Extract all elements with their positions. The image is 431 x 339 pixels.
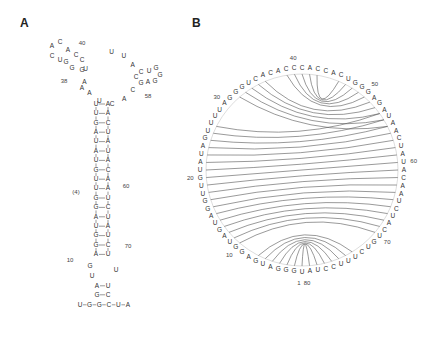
circle-nucleotide: C [292, 64, 297, 71]
circle-nucleotide: U [346, 257, 351, 264]
hairpin-nucleotide: U [147, 67, 152, 74]
position-label-40: 40 [290, 55, 297, 61]
position-label-1: 1 [297, 280, 301, 286]
circle-nucleotide: C [300, 64, 305, 71]
circle-nucleotide: U [228, 238, 233, 245]
circle-nucleotide: G [284, 266, 289, 273]
position-label-60: 60 [410, 158, 417, 164]
position-label-20: 20 [187, 175, 194, 181]
circle-nucleotide: U [399, 142, 404, 149]
circle-nucleotide: U [339, 260, 344, 267]
circle-nucleotide: C [253, 75, 258, 82]
hairpin-nucleotide: G [63, 58, 68, 65]
circle-nucleotide: C [316, 65, 321, 72]
circle-nucleotide: G [217, 226, 222, 233]
position-label-58: 58 [145, 93, 152, 99]
hairpin-nucleotide: A [80, 84, 85, 91]
circle-nucleotide: C [339, 71, 344, 78]
pair-arc [287, 243, 324, 265]
stem-nucleotide-right: A [106, 222, 111, 229]
circle-nucleotide: A [268, 263, 273, 270]
pair-arc [209, 133, 391, 149]
tail-nucleotide: G [87, 301, 92, 308]
stem-nucleotide-right: A [106, 156, 111, 163]
circle-nucleotide: U [397, 197, 402, 204]
circle-nucleotide: G [372, 238, 377, 245]
circle-nucleotide: C [323, 265, 328, 272]
hairpin-nucleotide: G [152, 77, 157, 84]
hairpin-nucleotide: G [79, 66, 84, 73]
circle-nucleotide: A [402, 166, 407, 173]
position-label-50: 50 [371, 81, 378, 87]
circle-nucleotide: U [300, 268, 305, 275]
circle-nucleotide: G [353, 79, 358, 86]
circle-nucleotide: U [387, 112, 392, 119]
stem-nucleotide-right: A [106, 175, 111, 182]
circle-nucleotide: U [200, 190, 205, 197]
circle-nucleotide: A [222, 232, 227, 239]
loop-nucleotide: U [97, 97, 102, 104]
pair-arc [258, 84, 375, 114]
position-label-38: 38 [61, 78, 68, 84]
circle-nucleotide: C [394, 205, 399, 212]
circle-nucleotide: A [391, 119, 396, 126]
circle-nucleotide: G [359, 83, 364, 90]
circle-nucleotide: U [316, 266, 321, 273]
hairpin-nucleotide: U [58, 56, 63, 63]
stem-nucleotide-right: A [106, 109, 111, 116]
circle-nucleotide: G [202, 134, 207, 141]
hairpin-nucleotide: A [50, 42, 55, 49]
circle-nucleotide: C [397, 134, 402, 141]
loop-nucleotide: U [90, 272, 95, 279]
circle-nucleotide: U [353, 253, 358, 260]
loop-nucleotide: U [122, 52, 127, 59]
circle-nucleotide: U [217, 106, 222, 113]
circle-nucleotide: C [382, 226, 387, 233]
circle-nucleotide: A [276, 67, 281, 74]
pair-arc [207, 170, 398, 185]
hairpin-nucleotide: G [157, 71, 162, 78]
stem-nucleotide-left: A [94, 128, 99, 135]
loop-nucleotide: C [110, 100, 115, 107]
pair-arc [213, 191, 395, 207]
pair-arc [302, 74, 352, 102]
circle-nucleotide: U [391, 212, 396, 219]
position-label-40: 40 [79, 40, 86, 46]
circle-nucleotide: U [205, 127, 210, 134]
circle-nucleotide: A [387, 219, 392, 226]
position-label-60: 60 [123, 183, 130, 189]
secondary-structure-diagram: UAUAGCAUUAAUUAGCUAUAGUGCAUUAGUGCAUGUUAUG… [0, 0, 431, 339]
circle-nucleotide: C [331, 263, 336, 270]
pair-arc [220, 203, 391, 221]
circle-nucleotide: G [240, 248, 245, 255]
circle-nucleotide: G [276, 265, 281, 272]
pair-arc [317, 75, 339, 99]
stem-nucleotide-right: A [106, 137, 111, 144]
circle-nucleotide: A [331, 69, 336, 76]
circle-nucleotide: U [198, 166, 203, 173]
hairpin-nucleotide: C [139, 68, 144, 75]
circle-nucleotide: C [323, 67, 328, 74]
circle-nucleotide: G [233, 88, 238, 95]
hairpin-nucleotide: G [69, 64, 74, 71]
hairpin-nucleotide: A [146, 78, 151, 85]
circle-nucleotide: U [246, 79, 251, 86]
stem-nucleotide-right: C [106, 291, 111, 298]
position-label-10: 10 [67, 257, 74, 263]
circle-nucleotide: C [268, 69, 273, 76]
position-label-10: 10 [226, 252, 233, 258]
circle-nucleotide: C [401, 174, 406, 181]
position-label: (4) [72, 189, 79, 195]
circle-nucleotide: U [377, 232, 382, 239]
pair-arc [209, 178, 398, 193]
position-label-70: 70 [125, 243, 132, 249]
pair-arc [216, 114, 379, 133]
position-label-70: 70 [384, 239, 391, 245]
circle-nucleotide: A [399, 190, 404, 197]
hairpin-nucleotide: G [153, 64, 158, 71]
pair-arc [216, 197, 393, 214]
circle-nucleotide: A [401, 150, 406, 157]
loop-nucleotide: A [122, 95, 127, 102]
circle-nucleotide: G [205, 205, 210, 212]
circle-nucleotide: A [209, 212, 214, 219]
